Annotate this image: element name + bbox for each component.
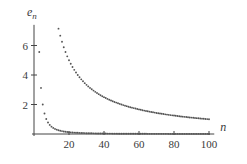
data-point	[63, 46, 65, 48]
data-point	[145, 110, 147, 112]
data-point	[65, 51, 67, 53]
data-point	[54, 128, 56, 130]
y-axis-label: en	[27, 5, 37, 21]
data-point	[47, 122, 49, 124]
data-point	[117, 102, 119, 104]
data-point	[87, 85, 89, 87]
data-point	[66, 55, 68, 57]
data-point	[178, 133, 180, 135]
data-point	[126, 105, 128, 107]
data-point	[196, 133, 198, 135]
data-point	[184, 133, 186, 135]
data-point	[77, 74, 79, 76]
data-point	[138, 108, 140, 110]
data-point	[59, 35, 61, 37]
data-point	[94, 132, 96, 134]
data-point	[159, 133, 161, 135]
data-point	[73, 69, 75, 71]
data-point	[112, 100, 114, 102]
data-point	[72, 132, 74, 134]
data-point	[89, 132, 91, 134]
data-point	[42, 104, 44, 106]
data-point	[61, 41, 63, 43]
data-point	[131, 107, 133, 109]
data-point	[133, 107, 135, 109]
data-point	[142, 133, 144, 135]
data-point	[84, 132, 86, 134]
data-point	[203, 118, 205, 120]
data-point	[154, 112, 156, 114]
data-point	[164, 113, 166, 115]
data-point	[94, 91, 96, 93]
data-point	[164, 133, 166, 135]
data-point	[119, 133, 121, 135]
data-point	[87, 132, 89, 134]
data-point	[138, 133, 140, 135]
y-tick-label: 2	[23, 99, 29, 111]
data-point	[135, 133, 137, 135]
data-point	[166, 114, 168, 116]
data-point	[128, 133, 130, 135]
data-point	[110, 100, 112, 102]
x-tick-label: 100	[201, 138, 218, 150]
data-point	[103, 96, 105, 98]
data-point	[185, 133, 187, 135]
data-point	[199, 133, 201, 135]
data-point	[208, 133, 210, 135]
data-point	[149, 133, 151, 135]
data-point	[129, 106, 131, 108]
data-point	[173, 115, 175, 117]
data-point	[115, 102, 117, 104]
data-point	[58, 28, 60, 30]
data-point	[196, 117, 198, 119]
data-point	[107, 133, 109, 135]
data-point	[177, 115, 179, 117]
data-point	[152, 133, 154, 135]
data-point	[156, 112, 158, 114]
data-point	[86, 84, 88, 86]
data-point	[51, 126, 53, 128]
data-point	[173, 133, 175, 135]
data-point	[150, 111, 152, 113]
data-point	[80, 78, 82, 80]
data-point	[59, 130, 61, 132]
data-point	[201, 133, 203, 135]
data-point	[101, 95, 103, 97]
data-point	[175, 133, 177, 135]
x-tick-label: 40	[99, 138, 111, 150]
data-point	[112, 133, 114, 135]
data-point	[131, 133, 133, 135]
data-point	[187, 116, 189, 118]
data-point	[163, 113, 165, 115]
data-point	[194, 117, 196, 119]
data-point	[170, 114, 172, 116]
data-point	[150, 133, 152, 135]
data-point	[56, 129, 58, 131]
y-tick-label: 6	[23, 40, 29, 52]
data-point	[58, 129, 60, 131]
data-point	[84, 82, 86, 84]
data-point	[154, 133, 156, 135]
data-point	[140, 109, 142, 111]
data-point	[192, 117, 194, 119]
data-point	[38, 51, 40, 53]
data-point	[126, 133, 128, 135]
data-point	[108, 133, 110, 135]
data-point	[72, 66, 74, 68]
data-point	[157, 112, 159, 114]
data-point	[206, 118, 208, 120]
data-point	[163, 133, 165, 135]
data-point	[145, 133, 147, 135]
data-point	[96, 92, 98, 94]
data-point	[75, 72, 77, 74]
data-point	[80, 132, 82, 134]
data-point	[79, 132, 81, 134]
data-point	[147, 133, 149, 135]
data-point	[65, 131, 67, 133]
data-point	[142, 109, 144, 111]
data-point	[44, 113, 46, 115]
data-point	[149, 111, 151, 113]
data-point	[201, 118, 203, 120]
data-point	[182, 116, 184, 118]
data-point	[205, 118, 207, 120]
